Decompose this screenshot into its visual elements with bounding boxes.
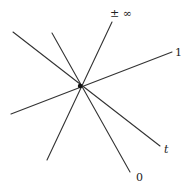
line-one xyxy=(11,52,172,114)
label-infinity: ± ∞ xyxy=(110,7,132,20)
labels-group: ± ∞ 1 t 0 xyxy=(110,7,182,184)
intersection-point xyxy=(78,84,82,88)
label-t: t xyxy=(164,143,169,156)
lines-group xyxy=(11,22,172,172)
label-zero: 0 xyxy=(136,171,143,184)
pencil-of-lines-diagram: ± ∞ 1 t 0 xyxy=(0,0,186,191)
line-t xyxy=(13,32,160,146)
line-zero xyxy=(52,33,130,172)
line-infinity xyxy=(47,22,112,160)
label-one: 1 xyxy=(175,46,182,59)
